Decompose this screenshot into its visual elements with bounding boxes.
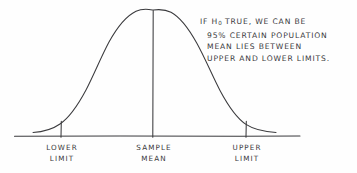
axis-label-upper-limit: UPPER LIMIT (223, 143, 271, 164)
upper-limit-label-line2: LIMIT (223, 154, 271, 165)
annotation-line-2: 95% CERTAIN POPULATION (200, 30, 330, 42)
annotation-block: IF H0 TRUE, WE CAN BE 95% CERTAIN POPULA… (200, 16, 330, 65)
figure-canvas: IF H0 TRUE, WE CAN BE 95% CERTAIN POPULA… (0, 0, 357, 173)
sample-mean-label-line2: MEAN (128, 154, 180, 165)
annotation-line-4: UPPER AND LOWER LIMITS. (200, 53, 330, 65)
sample-mean-label-line1: SAMPLE (136, 143, 171, 152)
axis-label-sample-mean: SAMPLE MEAN (128, 143, 180, 164)
annotation-line-1: IF H0 TRUE, WE CAN BE (200, 16, 330, 30)
lower-limit-label-line2: LIMIT (38, 154, 86, 165)
annotation-line-1-post: TRUE, WE CAN BE (222, 17, 306, 26)
upper-limit-label-line1: UPPER (233, 143, 262, 152)
annotation-line-1-pre: IF H (200, 17, 218, 26)
annotation-line-3: MEAN LIES BETWEEN (200, 41, 330, 53)
axis-label-lower-limit: LOWER LIMIT (38, 143, 86, 164)
lower-limit-label-line1: LOWER (46, 143, 78, 152)
